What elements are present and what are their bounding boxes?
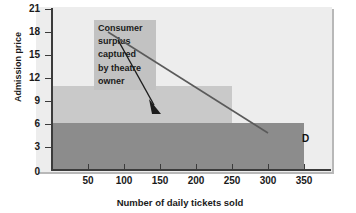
- surplus-region-upper: [52, 86, 232, 123]
- callout-line-4: by theatre: [98, 62, 156, 75]
- chart-screenshot: D Consumer surplus captured by theatre o…: [0, 0, 356, 213]
- x-axis-label-100: 100: [109, 176, 139, 186]
- callout-line-3: captured: [98, 48, 156, 61]
- x-axis-label-200: 200: [181, 176, 211, 186]
- x-axis-label-350: 350: [289, 176, 319, 186]
- y-axis-label-6: 6: [14, 119, 40, 129]
- x-tick-350: [304, 164, 305, 170]
- y-tick-6: [45, 124, 52, 125]
- y-tick-12: [45, 78, 52, 79]
- consumer-surplus-callout: Consumer surplus captured by theatre own…: [94, 20, 156, 90]
- x-axis-label-50: 50: [73, 176, 103, 186]
- callout-line-5: owner: [98, 75, 156, 88]
- demand-curve-label: D: [302, 133, 309, 144]
- x-tick-200: [196, 164, 197, 170]
- callout-line-1: Consumer: [98, 22, 156, 35]
- x-axis-line: [51, 169, 331, 171]
- x-axis-label-300: 300: [253, 176, 283, 186]
- x-tick-50: [88, 164, 89, 170]
- x-axis-label-150: 150: [145, 176, 175, 186]
- x-tick-150: [160, 164, 161, 170]
- x-tick-300: [268, 164, 269, 170]
- y-tick-3: [45, 147, 52, 148]
- y-tick-18: [45, 32, 52, 33]
- x-tick-250: [232, 164, 233, 170]
- x-axis-label-250: 250: [217, 176, 247, 186]
- y-axis-label-3: 3: [14, 142, 40, 152]
- x-tick-100: [124, 164, 125, 170]
- y-axis-title: Admission price: [13, 15, 23, 119]
- callout-line-2: surplus: [98, 35, 156, 48]
- y-tick-21: [45, 9, 52, 10]
- plot-panel: D Consumer surplus captured by theatre o…: [36, 7, 332, 172]
- y-axis-label-21: 21: [14, 4, 40, 14]
- surplus-region-lower: [52, 123, 304, 170]
- x-axis-title: Number of daily tickets sold: [60, 197, 300, 208]
- y-tick-15: [45, 55, 52, 56]
- y-axis-label-0: 0: [14, 167, 40, 177]
- y-tick-9: [45, 101, 52, 102]
